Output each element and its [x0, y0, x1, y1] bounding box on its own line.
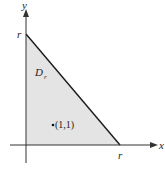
diagram-canvas: y x r r D r (1,1) — [0, 0, 165, 176]
region-label: D — [34, 66, 43, 78]
y-axis-label: y — [21, 0, 27, 11]
y-intercept-label: r — [17, 28, 22, 40]
point-label: (1,1) — [55, 119, 74, 131]
x-intercept-label: r — [118, 149, 123, 161]
x-axis-arrow-icon — [150, 142, 158, 148]
x-axis-label: x — [158, 139, 164, 151]
region-label-subscript: r — [44, 73, 47, 81]
point-marker — [52, 124, 55, 127]
